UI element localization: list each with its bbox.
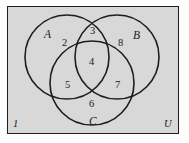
- universe-label: U: [164, 119, 172, 130]
- region-a-b: 3: [90, 26, 95, 37]
- venn-diagram-figure: A B C 2 3 8 4 5 7 6 1 U: [0, 0, 189, 143]
- region-c-only: 6: [89, 99, 94, 110]
- outside-region-label: 1: [13, 119, 18, 130]
- set-label-a: A: [44, 29, 51, 41]
- region-a-only: 2: [62, 38, 67, 49]
- set-label-c: C: [89, 116, 97, 128]
- region-a-b-c: 4: [89, 57, 94, 68]
- region-a-c: 5: [65, 80, 70, 91]
- region-b-only: 8: [118, 38, 123, 49]
- set-label-b: B: [133, 30, 140, 42]
- region-b-c: 7: [115, 80, 120, 91]
